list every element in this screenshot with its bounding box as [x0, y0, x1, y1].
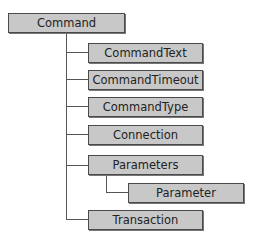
node-parameters: Parameters — [88, 155, 203, 175]
connector-parameter — [106, 192, 128, 193]
node-commandtext: CommandText — [88, 43, 203, 63]
node-commandtimeout: CommandTimeout — [88, 70, 203, 90]
node-command: Command — [8, 13, 125, 33]
connector-transaction — [66, 219, 88, 220]
connector-parameters — [66, 165, 88, 166]
node-connection: Connection — [88, 125, 203, 145]
trunk-connector — [66, 32, 67, 220]
connector-commandtimeout — [66, 79, 88, 80]
connector-connection — [66, 134, 88, 135]
connector-commandtext — [66, 52, 88, 53]
node-commandtype: CommandType — [88, 97, 203, 117]
parameters-branch-connector — [106, 174, 107, 193]
connector-commandtype — [66, 106, 88, 107]
node-transaction: Transaction — [88, 210, 203, 230]
node-parameter: Parameter — [128, 183, 244, 203]
